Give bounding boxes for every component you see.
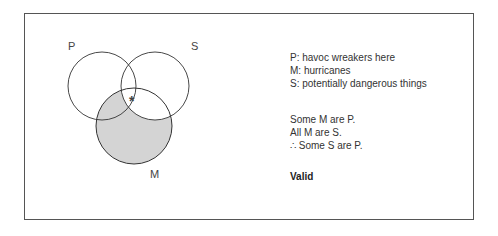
circle-label-p: P [68, 40, 75, 52]
term-legend: P: havoc wreakers here M: hurricanes S: … [290, 51, 427, 90]
syllogism: Some M are P. All M are S. ∴ Some S are … [290, 113, 363, 152]
shaded-region [0, 0, 498, 236]
venn-diagram [0, 0, 498, 236]
premise-1: Some M are P. [290, 113, 363, 126]
existence-mark: * [129, 93, 134, 109]
validity-verdict: Valid [290, 171, 313, 182]
legend-item-m: M: hurricanes [290, 64, 427, 77]
premise-2: All M are S. [290, 126, 363, 139]
conclusion: ∴ Some S are P. [290, 139, 363, 152]
legend-item-p: P: havoc wreakers here [290, 51, 427, 64]
circle-label-s: S [191, 40, 198, 52]
circle-label-m: M [150, 168, 159, 180]
legend-item-s: S: potentially dangerous things [290, 77, 427, 90]
